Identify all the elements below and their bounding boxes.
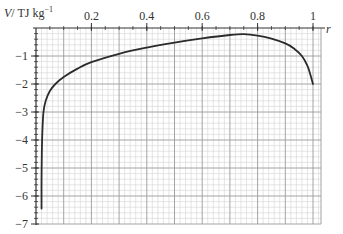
data-line: [42, 34, 313, 208]
grid-major: [36, 28, 321, 224]
chart: 0.20.40.60.81−1−2−3−4−5−6−7 V/ TJ kg−1 r: [0, 0, 343, 234]
x-tick-label: 0.6: [195, 9, 210, 23]
tick-labels: 0.20.40.60.81−1−2−3−4−5−6−7: [15, 9, 316, 231]
x-tick-label: 1: [310, 9, 316, 23]
y-axis-title: V/ TJ kg−1: [4, 5, 53, 20]
y-tick-label: −5: [15, 161, 28, 175]
x-tick-label: 0.2: [84, 9, 99, 23]
y-tick-label: −2: [15, 77, 28, 91]
tick-marks: [31, 23, 313, 224]
y-tick-label: −3: [15, 105, 28, 119]
x-axis-title: r: [326, 22, 331, 36]
y-tick-label: −4: [15, 133, 28, 147]
y-tick-label: −7: [15, 217, 28, 231]
x-tick-label: 0.8: [250, 9, 265, 23]
y-tick-label: −1: [15, 49, 28, 63]
y-tick-label: −6: [15, 189, 28, 203]
axes: [33, 28, 325, 225]
x-tick-label: 0.4: [139, 9, 154, 23]
grid-minor: [36, 28, 321, 224]
